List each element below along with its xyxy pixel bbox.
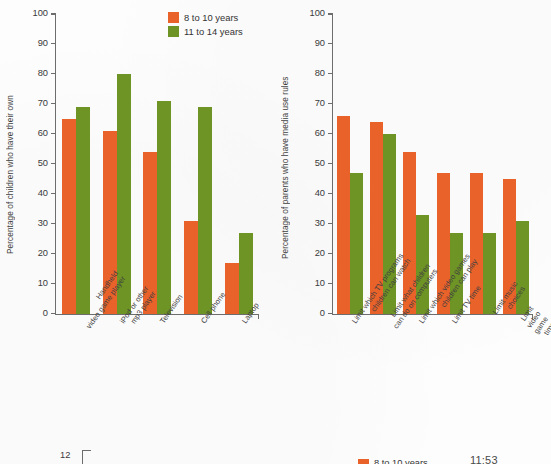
y-axis-tick-label: 20 [315, 248, 325, 258]
y-axis-tick-label: 100 [309, 8, 325, 18]
plot-area-right: 0102030405060708090100 Limit which TV pr… [332, 14, 533, 315]
legend-label-8-to-10: 8 to 10 years [184, 12, 238, 23]
y-axis-tick-label: 0 [43, 308, 48, 318]
bar-series-b [198, 107, 212, 314]
plot-area-left: 0102030405060708090100 Handheldvideo gam… [55, 14, 259, 315]
y-axis-tick-label: 80 [315, 68, 325, 78]
bar-group [218, 14, 259, 314]
chart-children-own-media: Percentage of children who have their ow… [0, 0, 275, 440]
y-axis-tick-label: 20 [38, 248, 48, 258]
clock-time: 11:53 [470, 454, 498, 464]
next-figure-y-tick-label: 12 [60, 450, 70, 460]
y-axis-tick-label: 100 [32, 8, 48, 18]
chart-parents-media-rules: Percentage of parents who have media use… [275, 0, 551, 440]
bar-series-a [184, 221, 198, 314]
legend-swatch-icon-8-to-10 [358, 459, 369, 464]
bar-series-a [225, 263, 239, 314]
next-figure-legend-label: 8 to 10 years [374, 458, 428, 464]
y-axis-tick-label: 90 [38, 38, 48, 48]
legend-label-11-to-14: 11 to 14 years [184, 26, 243, 37]
y-axis-tick-label: 10 [315, 278, 325, 288]
next-figure-axis-corner [82, 450, 91, 464]
y-axis-tick-label: 10 [38, 278, 48, 288]
next-figure-legend: 8 to 10 years [358, 458, 428, 464]
y-axis-tick-label: 60 [38, 128, 48, 138]
y-axis-tick-label: 80 [38, 68, 48, 78]
scanned-page: Percentage of children who have their ow… [0, 0, 551, 464]
bar-group [333, 14, 366, 314]
legend-left: 8 to 10 years 11 to 14 years [168, 12, 243, 37]
bar-group [137, 14, 178, 314]
y-axis-tick-label: 40 [315, 188, 325, 198]
bar-series-a [337, 116, 350, 314]
y-axis-tick-label: 90 [315, 38, 325, 48]
next-figure-partial: 12 8 to 10 years 11:53 [0, 438, 551, 464]
y-axis-tick-label: 50 [38, 158, 48, 168]
bar-group [97, 14, 138, 314]
bar-series-a [62, 119, 76, 314]
bar-series-b [157, 101, 171, 314]
bar-series-b [483, 233, 496, 314]
bar-series-b [76, 107, 90, 314]
bar-series-b [350, 173, 363, 314]
legend-swatch-icon-8-to-10 [168, 12, 179, 23]
bar-series-b [239, 233, 253, 314]
y-axis-label-right: Percentage of parents who have media use… [281, 18, 290, 318]
y-axis-tick-label: 30 [315, 218, 325, 228]
legend-swatch-icon-11-to-14 [168, 26, 179, 37]
y-axis-tick-label: 50 [315, 158, 325, 168]
bar-group-container-left [56, 14, 259, 314]
y-axis-label-left: Percentage of children who have their ow… [6, 60, 15, 290]
y-axis-tick-label: 30 [38, 218, 48, 228]
bar-group [500, 14, 533, 314]
bar-group [178, 14, 219, 314]
y-axis-tick-label: 60 [315, 128, 325, 138]
legend-item-8-to-10: 8 to 10 years [168, 12, 243, 23]
y-axis-tick-label: 40 [38, 188, 48, 198]
legend-item-11-to-14: 11 to 14 years [168, 26, 243, 37]
bar-group [56, 14, 97, 314]
y-axis-tick-label: 70 [38, 98, 48, 108]
y-axis-tick-label: 70 [315, 98, 325, 108]
y-axis-tick-label: 0 [320, 308, 325, 318]
x-axis-end-cap-left [258, 314, 259, 319]
